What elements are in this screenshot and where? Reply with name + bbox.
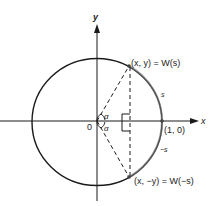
radius-to-w-minus-s: [97, 121, 129, 177]
arc-minus-s: [129, 122, 162, 177]
radius-to-ws: [97, 66, 129, 121]
arc-s: [129, 66, 162, 122]
arc-label-minus-s: −s: [160, 146, 168, 153]
point-w-minus-s: [127, 175, 131, 179]
point-unit: [160, 119, 164, 123]
y-axis-label: y: [92, 12, 99, 22]
y-axis-arrow-icon: [94, 24, 100, 33]
point-label-ws: (x, y) = W(s): [131, 58, 180, 68]
angle-label-lower: α: [104, 124, 109, 133]
x-axis-arrow-icon: [190, 118, 199, 124]
angle-label-upper: α: [104, 112, 109, 121]
origin-label: 0: [87, 122, 92, 132]
point-label-w-minus-s: (x, −y) = W(−s): [134, 176, 194, 186]
unit-circle-diagram: y x 0 (x, y) = W(s) (x, −y) = W(−s) (1, …: [0, 0, 215, 206]
arc-label-s: s: [161, 91, 165, 98]
right-angle-marker-icon: [122, 114, 130, 131]
point-label-unit: (1, 0): [164, 125, 185, 135]
x-axis-label: x: [200, 116, 206, 126]
